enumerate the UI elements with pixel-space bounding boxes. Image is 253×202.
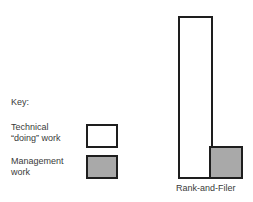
key-swatch-management (86, 155, 118, 179)
key-label-management: Management work (11, 156, 64, 178)
key-title: Key: (11, 97, 29, 108)
bar-technical-work (178, 16, 213, 179)
bar-management-work (209, 146, 243, 179)
key-swatch-technical (86, 124, 118, 148)
category-label: Rank-and-Filer (176, 183, 253, 194)
key-label-technical: Technical “doing” work (11, 122, 61, 144)
